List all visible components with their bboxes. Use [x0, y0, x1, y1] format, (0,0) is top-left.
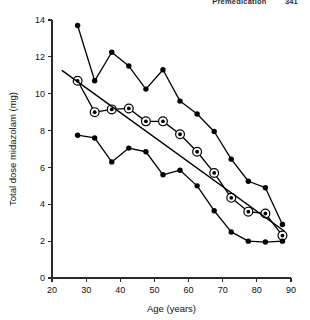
x-tick-label: 20	[47, 285, 57, 295]
data-point	[280, 222, 285, 227]
data-point	[280, 238, 285, 243]
x-tick-label: 80	[252, 285, 262, 295]
series-line	[78, 135, 283, 242]
data-point	[127, 107, 131, 111]
y-tick-label: 10	[35, 89, 45, 99]
y-tick-label: 0	[40, 273, 45, 283]
x-tick-label: 90	[286, 285, 296, 295]
data-point	[281, 234, 285, 238]
data-point	[160, 67, 165, 72]
data-point	[195, 150, 199, 154]
y-tick-label: 2	[40, 236, 45, 246]
data-point	[109, 50, 114, 55]
data-series-group	[62, 23, 287, 245]
data-point	[143, 86, 148, 91]
tick-labels-group: 024681012142030405060708090	[35, 15, 296, 295]
data-point	[246, 179, 251, 184]
ticks-group	[48, 20, 291, 282]
data-point	[212, 171, 216, 175]
series-line	[62, 71, 284, 231]
data-point	[92, 135, 97, 140]
y-tick-label: 6	[40, 163, 45, 173]
data-point	[194, 111, 199, 116]
data-point	[143, 149, 148, 154]
data-point	[126, 63, 131, 68]
data-point	[75, 132, 80, 137]
data-point	[263, 239, 268, 244]
y-tick-label: 12	[35, 52, 45, 62]
figure-container: Premedication 341 0246810121420304050607…	[0, 0, 310, 320]
data-point	[92, 78, 97, 83]
data-point	[177, 167, 182, 172]
x-tick-label: 50	[149, 285, 159, 295]
data-point	[160, 172, 165, 177]
data-point	[126, 145, 131, 150]
chart-svg: 024681012142030405060708090 Age (years) …	[0, 0, 310, 320]
data-point	[75, 23, 80, 28]
series-upper-percentile	[75, 23, 285, 227]
y-tick-label: 8	[40, 126, 45, 136]
x-tick-label: 30	[81, 285, 91, 295]
data-point	[229, 229, 234, 234]
data-point	[93, 110, 97, 114]
series-regression-line	[62, 71, 284, 231]
chart-plot-area: 024681012142030405060708090 Age (years) …	[0, 0, 310, 320]
y-tick-label: 14	[35, 15, 45, 25]
x-tick-label: 60	[184, 285, 194, 295]
data-point	[263, 185, 268, 190]
x-axis-label: Age (years)	[147, 303, 196, 314]
data-point	[194, 183, 199, 188]
data-point	[211, 129, 216, 134]
series-line	[78, 26, 283, 225]
data-point	[144, 119, 148, 123]
data-point	[263, 212, 267, 216]
series-lower-percentile	[75, 132, 285, 244]
x-tick-label: 70	[218, 285, 228, 295]
y-tick-label: 4	[40, 199, 45, 209]
data-point	[161, 119, 165, 123]
data-point	[177, 98, 182, 103]
data-point	[178, 132, 182, 136]
data-point	[211, 208, 216, 213]
data-point	[229, 196, 233, 200]
data-point	[229, 156, 234, 161]
data-point	[109, 159, 114, 164]
data-point	[246, 210, 250, 214]
x-tick-label: 40	[115, 285, 125, 295]
data-point	[246, 238, 251, 243]
y-axis-label: Total dose midazolam (mg)	[7, 92, 18, 206]
